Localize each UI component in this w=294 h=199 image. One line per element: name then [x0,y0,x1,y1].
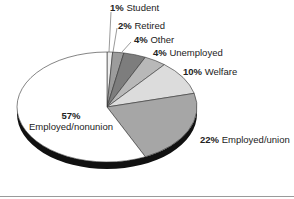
label-retired: 2% Retired [118,20,165,31]
label-welfare-name: Welfare [205,66,238,77]
label-student-name: Student [126,2,159,13]
label-unemployed-name: Unemployed [169,47,222,58]
label-employed-nonunion: 57% Employed/nonunion [28,110,114,132]
label-retired-pct: 2% [118,20,132,31]
label-student: 1% Student [110,2,159,13]
label-other-pct: 4% [134,34,148,45]
label-welfare: 10% Welfare [183,66,237,77]
label-other-name: Other [150,34,174,45]
bottom-divider [0,196,294,197]
label-employed-union: 22% Employed/union [200,134,290,145]
leader-lines [109,12,131,52]
label-union-name: Employed/union [222,134,290,145]
label-nonunion-name: Employed/nonunion [28,121,114,132]
label-unemployed-pct: 4% [153,47,167,58]
label-welfare-pct: 10% [183,66,202,77]
label-unemployed: 4% Unemployed [153,47,223,58]
label-retired-name: Retired [134,20,165,31]
label-nonunion-pct: 57% [61,110,80,121]
pie-slices [17,52,197,162]
label-student-pct: 1% [110,2,124,13]
label-other: 4% Other [134,34,174,45]
label-union-pct: 22% [200,134,219,145]
